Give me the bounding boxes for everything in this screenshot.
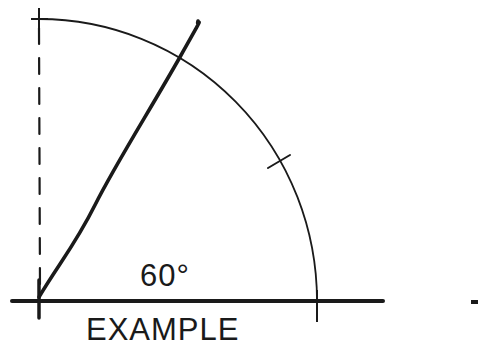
dashed-vertical-line bbox=[39, 28, 40, 290]
sixty-degree-line bbox=[39, 21, 199, 297]
angle-construction-diagram bbox=[0, 0, 478, 356]
caption-label: EXAMPLE bbox=[86, 312, 239, 348]
angle-label: 60° bbox=[140, 258, 190, 294]
